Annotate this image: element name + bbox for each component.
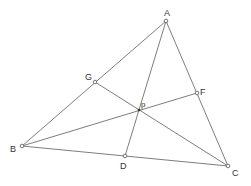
cevian-diagram: A B C D F G p	[0, 0, 251, 186]
segment-BF	[22, 93, 197, 146]
label-B: B	[10, 144, 16, 154]
point-D[interactable]	[123, 154, 127, 158]
label-C: C	[232, 168, 239, 178]
point-B[interactable]	[20, 144, 24, 148]
point-G[interactable]	[93, 80, 97, 84]
label-p: p	[141, 100, 146, 109]
point-p[interactable]	[138, 109, 141, 112]
label-G: G	[85, 72, 92, 82]
segment-AD	[125, 21, 166, 156]
label-A: A	[164, 8, 170, 18]
point-A[interactable]	[164, 19, 168, 23]
segment-CG	[95, 82, 228, 166]
point-C[interactable]	[226, 164, 230, 168]
label-F: F	[200, 87, 206, 97]
label-D: D	[120, 161, 127, 171]
point-F[interactable]	[195, 91, 199, 95]
